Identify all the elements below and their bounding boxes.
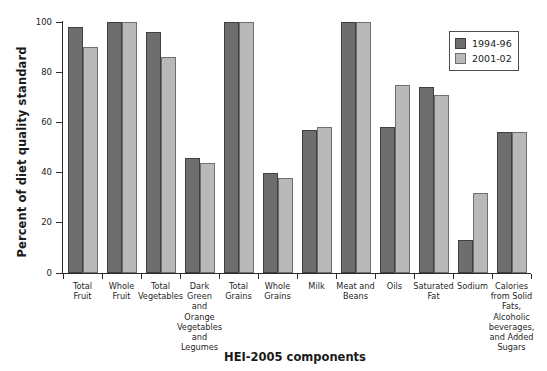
bar <box>263 173 278 273</box>
y-tick-label: 0 <box>24 269 52 278</box>
bar <box>122 22 137 273</box>
x-tick-mark <box>336 274 337 279</box>
bar <box>356 22 371 273</box>
bar <box>458 240 473 273</box>
bar <box>200 163 215 273</box>
bar <box>68 27 83 273</box>
bar <box>302 130 317 273</box>
bar <box>473 193 488 273</box>
legend-swatch-icon <box>455 38 466 49</box>
x-tick-mark <box>531 274 532 279</box>
y-tick-label: 100 <box>24 18 52 27</box>
bar <box>395 85 410 273</box>
bar <box>434 95 449 273</box>
x-tick-mark <box>102 274 103 279</box>
bar <box>239 22 254 273</box>
x-tick-mark <box>492 274 493 279</box>
bar <box>497 132 512 273</box>
legend-label: 1994-96 <box>472 38 512 49</box>
bar <box>224 22 239 273</box>
x-tick-mark <box>258 274 259 279</box>
bar <box>380 127 395 273</box>
x-category-label: Calories from Solid Fats, Alcoholic beve… <box>485 281 538 352</box>
bar <box>83 47 98 273</box>
bar <box>161 57 176 273</box>
y-tick-mark <box>56 122 62 123</box>
bar <box>512 132 527 273</box>
legend-swatch-icon <box>455 53 466 64</box>
y-tick-mark <box>56 273 62 274</box>
y-tick-mark <box>56 172 62 173</box>
legend-item: 1994-96 <box>455 36 512 51</box>
x-tick-mark <box>375 274 376 279</box>
y-tick-label: 40 <box>24 168 52 177</box>
bar <box>317 127 332 273</box>
y-tick-label: 20 <box>24 218 52 227</box>
x-tick-mark <box>141 274 142 279</box>
legend-label: 2001-02 <box>472 53 512 64</box>
x-tick-mark <box>414 274 415 279</box>
bar <box>419 87 434 273</box>
y-tick-mark <box>56 22 62 23</box>
y-axis-title: Percent of diet quality standard <box>13 12 31 292</box>
x-tick-mark <box>219 274 220 279</box>
y-tick-mark <box>56 222 62 223</box>
y-tick-label: 60 <box>24 118 52 127</box>
bar <box>107 22 122 273</box>
x-axis-title: HEI-2005 components <box>60 350 530 364</box>
bar <box>185 158 200 273</box>
x-tick-mark <box>180 274 181 279</box>
bar <box>146 32 161 273</box>
x-tick-mark <box>453 274 454 279</box>
y-tick-mark <box>56 72 62 73</box>
bar <box>278 178 293 273</box>
chart-legend: 1994-962001-02 <box>449 31 519 71</box>
x-tick-mark <box>63 274 64 279</box>
chart-figure: Percent of diet quality standard HEI-200… <box>0 0 547 371</box>
y-tick-label: 80 <box>24 68 52 77</box>
legend-item: 2001-02 <box>455 51 512 66</box>
x-tick-mark <box>297 274 298 279</box>
bar <box>341 22 356 273</box>
